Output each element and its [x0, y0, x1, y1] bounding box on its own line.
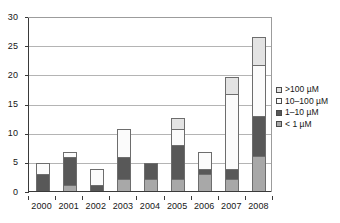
- legend-item-2[interactable]: 1–10 µM: [276, 107, 340, 118]
- y-tick-label: 0: [0, 188, 24, 197]
- y-tick-label: 5: [0, 158, 24, 167]
- bar-2005[interactable]: [171, 115, 185, 191]
- x-tick-mark: [109, 196, 110, 200]
- legend-label: < 1 µM: [285, 120, 312, 129]
- x-tick-label: 2001: [55, 201, 82, 212]
- bar-2007[interactable]: [225, 74, 239, 191]
- bar-segment-1to10[interactable]: [117, 157, 131, 180]
- gridline: [29, 46, 272, 47]
- bar-segment-lt1[interactable]: [171, 179, 185, 191]
- bar-segment-lt1[interactable]: [63, 185, 77, 191]
- x-tick-mark: [28, 196, 29, 200]
- x-tick-label: 2002: [82, 201, 109, 212]
- x-tick-mark: [218, 196, 219, 200]
- legend-label: 1–10 µM: [285, 108, 319, 117]
- x-tick-label: 2003: [109, 201, 136, 212]
- bar-segment-10to100[interactable]: [171, 129, 185, 147]
- x-tick-mark: [272, 196, 273, 200]
- bar-segment-gt100[interactable]: [225, 77, 239, 95]
- bar-segment-10to100[interactable]: [90, 169, 104, 187]
- x-tick-mark: [136, 196, 137, 200]
- bar-segment-10to100[interactable]: [225, 94, 239, 170]
- y-tick-mark: [25, 46, 29, 47]
- bar-segment-lt1[interactable]: [144, 179, 158, 191]
- y-tick-mark: [25, 134, 29, 135]
- legend-item-0[interactable]: >100 µM: [276, 84, 340, 95]
- y-tick-mark: [25, 75, 29, 76]
- x-tick-label: 2008: [245, 201, 272, 212]
- legend-swatch-icon: [276, 121, 282, 127]
- legend-swatch-icon: [276, 110, 282, 116]
- legend-item-1[interactable]: 10–100 µM: [276, 96, 340, 107]
- y-axis: 051015202530: [0, 0, 24, 223]
- y-tick-label: 25: [0, 42, 24, 51]
- bar-2003[interactable]: [117, 127, 131, 191]
- bar-segment-1to10[interactable]: [144, 163, 158, 181]
- bar-2001[interactable]: [63, 150, 77, 191]
- x-tick-label: 2000: [28, 201, 55, 212]
- x-tick-label: 2006: [191, 201, 218, 212]
- bar-segment-lt1[interactable]: [225, 179, 239, 191]
- bar-2006[interactable]: [198, 150, 212, 191]
- x-tick-mark: [191, 196, 192, 200]
- bar-segment-1to10[interactable]: [171, 145, 185, 180]
- chart-legend: >100 µM10–100 µM1–10 µM< 1 µM: [276, 84, 340, 130]
- x-tick-mark: [245, 196, 246, 200]
- bar-2004[interactable]: [144, 162, 158, 191]
- y-tick-label: 10: [0, 129, 24, 138]
- bar-segment-lt1[interactable]: [198, 174, 212, 192]
- legend-swatch-icon: [276, 87, 282, 93]
- x-tick-mark: [164, 196, 165, 200]
- x-tick-label: 2007: [218, 201, 245, 212]
- y-tick-label: 30: [0, 13, 24, 22]
- x-tick-label: 2005: [164, 201, 191, 212]
- y-tick-mark: [25, 163, 29, 164]
- y-tick-label: 15: [0, 100, 24, 109]
- bar-2000[interactable]: [36, 162, 50, 191]
- y-tick-mark: [25, 192, 29, 193]
- stacked-bar-chart: 051015202530 200020012002200320042005200…: [0, 0, 340, 223]
- bar-segment-10to100[interactable]: [252, 65, 266, 118]
- bar-segment-1to10[interactable]: [63, 157, 77, 186]
- bar-segment-1to10[interactable]: [90, 185, 104, 191]
- bar-segment-gt100[interactable]: [252, 37, 266, 66]
- x-tick-label: 2004: [136, 201, 163, 212]
- bar-segment-10to100[interactable]: [198, 152, 212, 170]
- bar-2008[interactable]: [252, 34, 266, 192]
- plot-area: [28, 17, 272, 192]
- bar-segment-1to10[interactable]: [36, 174, 50, 192]
- bar-segment-1to10[interactable]: [252, 116, 266, 157]
- legend-swatch-icon: [276, 98, 282, 104]
- x-tick-mark: [82, 196, 83, 200]
- y-tick-mark: [25, 17, 29, 18]
- bar-segment-10to100[interactable]: [117, 129, 131, 158]
- legend-label: >100 µM: [285, 85, 319, 94]
- bar-segment-lt1[interactable]: [117, 179, 131, 191]
- legend-item-3[interactable]: < 1 µM: [276, 119, 340, 130]
- y-tick-mark: [25, 105, 29, 106]
- x-axis: 200020012002200320042005200620072008: [28, 196, 272, 214]
- bar-segment-lt1[interactable]: [252, 156, 266, 191]
- bar-2002[interactable]: [90, 168, 104, 191]
- legend-label: 10–100 µM: [285, 97, 328, 106]
- y-tick-label: 20: [0, 71, 24, 80]
- x-tick-mark: [55, 196, 56, 200]
- gridline: [29, 17, 272, 18]
